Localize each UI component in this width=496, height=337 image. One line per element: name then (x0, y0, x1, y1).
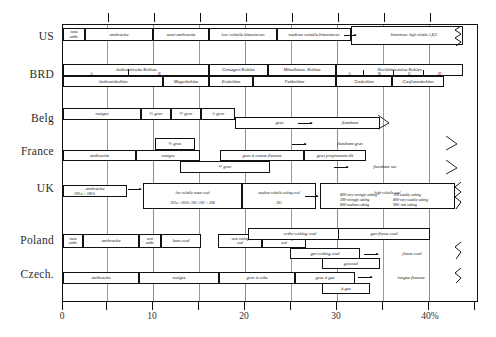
france-band-gras-proprement-dit: gras proprement dit (304, 150, 366, 161)
poland-zigzag-continuation-icon (452, 242, 466, 260)
row-label-france: France (0, 145, 54, 157)
france-zigzag-continuation-icon-1 (444, 136, 458, 152)
france-band-flambant-sec: flambant sec (350, 161, 420, 172)
top-tick-1 (108, 13, 109, 22)
czech-band-anthracite: anthracite (63, 272, 139, 284)
top-tick-4 (246, 13, 247, 22)
brd-band-gaskohlen: Gaskohlen (336, 76, 392, 87)
belg-zigzag-continuation-icon (376, 115, 390, 131)
poland-band-gascoal: gascoal (322, 258, 380, 269)
us-band-low-volatile-bituminous: low volatile bituminous (209, 28, 277, 41)
czech-arrow-to-longue-flamme (358, 277, 372, 278)
brd-band-gemagert-kohlen: Gemagert Kohlen (209, 64, 268, 76)
belg-label-gras: gras (275, 120, 283, 126)
us-band-anthracite: anthracite (85, 28, 153, 41)
belg-band-maigre: maigre (63, 108, 141, 120)
belg-band-quarter-gras: ¼ gras (141, 108, 171, 120)
uk-label-low-volatile-steam-coal: low volatile steam coal (145, 191, 240, 196)
uk-label-caking-700: 700-weakly caking (393, 193, 421, 198)
top-tick-7 (384, 13, 385, 22)
france-band-gras-courte-flamme: gras à courte flamme (220, 150, 304, 161)
brd-band-mittelbitum-kohlen: Mittelbitum. Kohlen (268, 64, 336, 76)
poland-band-semi-anthracite: semi anthr. (139, 234, 161, 248)
us-label-bituminous-high-volatile: bituminous: high volatile A,B,C (367, 33, 461, 38)
france-band-maigre: maigre (136, 150, 200, 161)
us-zigzag-continuation-icon (452, 26, 466, 46)
france-arrow-to-flambant-gras (292, 144, 306, 145)
uk-band-anthracite: anthracite (63, 185, 127, 197)
uk-label-caking-500: 500-strongly caking (340, 198, 369, 203)
us-arrow-to-high-volatile (344, 35, 356, 36)
brd-band-gasflammkohlen: Gasflammkohlen (392, 76, 444, 87)
poland-arrow-to-flame-coal (364, 254, 378, 255)
uk-arrow-to-low-volatile (128, 189, 141, 190)
belg-band-half-gras: ½ gras (171, 108, 201, 120)
czech-zigzag-continuation-icon (452, 268, 466, 284)
us-band-meta-anthracite: meta anthr. (63, 28, 85, 41)
axis-label-10: 10 (147, 311, 157, 321)
uk-label-caking-400: 400-very strongly caking (340, 193, 377, 198)
france-band-quarter-gras: ¼ gras (155, 138, 195, 150)
axis-tick-30 (336, 302, 337, 310)
czech-band-gras-a-coke: gras à coke (219, 272, 295, 284)
poland-band-lean-coal: lean coal (161, 234, 201, 248)
poland-band-meta-anthracite: meta anthr. (63, 234, 83, 248)
brd-band-anthrazitische-kohlen: Anthrazitische Kohlen (63, 64, 209, 76)
axis-tick-15 (198, 302, 199, 310)
brd-band-magerkohlen: Magerkohlen (163, 76, 209, 87)
axis-tick-45 (474, 302, 475, 310)
uk-arrow-to-high-volatile (305, 196, 318, 197)
uk-zigzag-continuation-icon (452, 182, 466, 210)
row-label-czech: Czech. (0, 268, 54, 280)
brd-band-esskohlen: Esskohlen (209, 76, 253, 87)
axis-tick-25 (290, 302, 291, 310)
poland-band-ortho-coking-coal: ortho-coking coal (248, 228, 352, 240)
poland-band-flame-coal: flame coal (384, 248, 440, 259)
axis-label-0: 0 (60, 311, 65, 321)
poland-band-gas-flame-coal: gas-flame coal (338, 228, 430, 240)
axis-tick-40 (428, 302, 429, 310)
belg-band-three-quarter-gras: ¾ gras (201, 108, 235, 120)
czech-band-longue-flamme: longue flamme (378, 272, 444, 283)
row-label-uk: UK (0, 182, 54, 194)
uk-label-medium-volatile-coking-coal: medium volatile coking coal (244, 191, 314, 196)
axis-tick-0 (62, 302, 63, 310)
coal-classification-figure: US BRD Belg France UK Poland Czech. meta… (0, 0, 496, 337)
france-arrow-to-flambant-sec (334, 167, 348, 168)
us-band-semi-anthracite: semi-anthracite (153, 28, 209, 41)
brd-div-anthrazitische (128, 69, 129, 76)
uk-label-low-volatile-codes: 201a ⌐201b⌐202⌐203 ⌐ 204 (145, 201, 240, 206)
poland-band-anthracite: anthracite (83, 234, 139, 248)
top-tick-5 (292, 13, 293, 22)
axis-label-30: 30 (331, 311, 341, 321)
france-zigzag-continuation-icon-2 (444, 160, 458, 176)
uk-label-anthracite: anthracite (86, 186, 105, 192)
axis-tick-5 (106, 302, 107, 310)
belg-arrow-to-flambant (298, 123, 312, 124)
brd-label-hochbituminose-kohlen: Hochbituminöse Kohlen (377, 67, 422, 73)
axis-tick-10 (152, 302, 153, 310)
top-tick-6 (338, 13, 339, 22)
top-tick-8 (430, 13, 431, 22)
france-band-flambant-gras: flambant gras (310, 138, 390, 149)
france-band-anthracite: anthracite (63, 150, 136, 161)
france-band-half-gras: ½ gras (180, 161, 270, 173)
uk-label-caking-600: 600-medium caking (340, 203, 369, 208)
uk-label-anthracite-codes: 100 a ⌐ 100 b (74, 192, 95, 197)
uk-label-caking-900: 900- non caking (393, 203, 417, 208)
row-label-brd: BRD (0, 68, 54, 80)
axis-label-20: 20 (239, 311, 249, 321)
top-tick-3 (200, 13, 201, 22)
top-tick-2 (154, 13, 155, 22)
axis-tick-35 (382, 302, 383, 310)
row-label-us: US (0, 30, 54, 42)
brd-band-hochbituminose-kohlen: Hochbituminöse Kohlen (336, 64, 463, 76)
axis-tick-20 (244, 302, 245, 310)
axis-label-40: 40% (421, 311, 438, 321)
uk-band-high-volatile-coal: high volatile coal 400-very strongly cak… (320, 183, 455, 209)
brd-band-anthrazitkohlen: Anthrazitkohlen (63, 76, 163, 87)
row-label-belg: Belg (0, 112, 54, 124)
us-band-high-volatile-group: bituminous: high volatile A,B,C sub-bitu… (351, 26, 463, 45)
row-label-poland: Poland (0, 234, 54, 246)
us-label-sub-bituminous: sub-bituminous A,B,C (367, 44, 461, 45)
